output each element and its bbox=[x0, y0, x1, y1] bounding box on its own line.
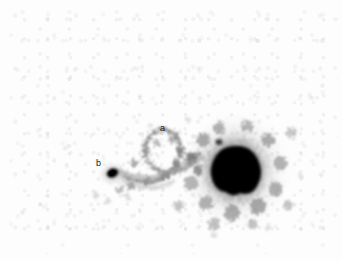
companion-knot-b bbox=[97, 161, 129, 187]
feature-label-a: a bbox=[160, 124, 165, 133]
sky-sources-layer bbox=[0, 0, 342, 260]
figure-root: a b bbox=[0, 0, 342, 260]
feature-label-b: b bbox=[96, 159, 101, 168]
sky-field-image: a b bbox=[0, 0, 342, 260]
